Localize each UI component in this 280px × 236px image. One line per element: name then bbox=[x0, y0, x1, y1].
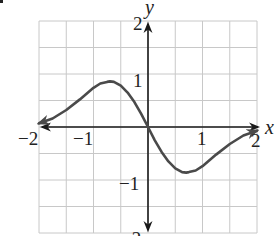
x-tick-label-1: 1 bbox=[197, 128, 207, 149]
x-tick-label-neg2: −2 bbox=[18, 128, 38, 149]
y-tick-label-2: 2 bbox=[133, 13, 143, 34]
y-tick-label-1: 1 bbox=[133, 70, 143, 91]
function-graph: −2 −1 1 2 x 2 y 1 −1 −2 bbox=[0, 0, 280, 236]
x-axis-label: x bbox=[264, 116, 274, 138]
y-tick-label-neg1: −1 bbox=[119, 173, 139, 194]
y-axis-label: y bbox=[143, 0, 154, 19]
y-tick-label-neg2: −2 bbox=[121, 228, 141, 236]
x-tick-label-2: 2 bbox=[251, 130, 261, 151]
x-tick-label-neg1: −1 bbox=[73, 128, 93, 149]
